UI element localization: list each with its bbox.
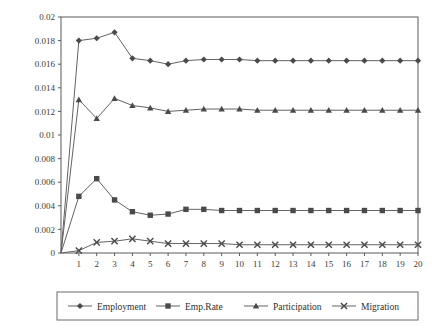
marker-diamond xyxy=(129,55,135,61)
x-tick-label: 7 xyxy=(184,259,189,269)
x-tick-label: 10 xyxy=(235,259,245,269)
legend-item-emp-rate[interactable]: Emp.Rate xyxy=(156,302,223,312)
x-tick-label: 9 xyxy=(219,259,224,269)
y-tick-label: 0.008 xyxy=(35,154,56,164)
marker-square xyxy=(273,208,278,213)
y-axis-tick-labels: 0.020.0180.0160.0140.0120.010.0080.0060.… xyxy=(35,12,56,258)
x-tick-label: 18 xyxy=(378,259,388,269)
x-tick-label: 15 xyxy=(324,259,334,269)
legend-item-employment[interactable]: Employment xyxy=(68,302,146,312)
plot-frame xyxy=(61,17,418,253)
line-chart: 0.020.0180.0160.0140.0120.010.0080.0060.… xyxy=(0,0,435,330)
marker-diamond xyxy=(147,58,153,64)
x-tick-label: 12 xyxy=(271,259,280,269)
marker-square xyxy=(148,213,153,218)
marker-square xyxy=(112,197,117,202)
x-tick-label: 6 xyxy=(166,259,171,269)
marker-square xyxy=(201,207,206,212)
marker-triangle xyxy=(111,95,117,101)
y-tick-label: 0.02 xyxy=(39,12,55,22)
marker-diamond xyxy=(290,58,296,64)
y-tick-label: 0.01 xyxy=(39,130,55,140)
marker-square xyxy=(94,176,99,181)
marker-diamond xyxy=(308,58,314,64)
marker-diamond xyxy=(236,56,242,62)
marker-square xyxy=(165,211,170,216)
marker-square xyxy=(255,208,260,213)
y-tick-label: 0 xyxy=(51,248,56,258)
marker-diamond xyxy=(397,58,403,64)
marker-diamond xyxy=(379,58,385,64)
marker-diamond xyxy=(183,58,189,64)
y-tick-label: 0.016 xyxy=(35,59,56,69)
legend-label: Emp.Rate xyxy=(185,302,223,312)
marker-diamond xyxy=(165,61,171,67)
series-layer xyxy=(61,29,421,254)
series-line xyxy=(61,32,418,253)
marker-square xyxy=(415,208,420,213)
marker-diamond xyxy=(344,58,350,64)
y-tick-label: 0.014 xyxy=(35,83,56,93)
marker-square xyxy=(130,209,135,214)
marker-diamond xyxy=(272,58,278,64)
legend-item-participation[interactable]: Participation xyxy=(244,302,322,312)
y-tick-label: 0.012 xyxy=(35,107,55,117)
series-participation xyxy=(61,95,421,253)
marker-diamond xyxy=(76,38,82,44)
x-tick-label: 20 xyxy=(414,259,424,269)
y-tick-label: 0.006 xyxy=(35,177,56,187)
marker-diamond xyxy=(77,303,83,309)
marker-square xyxy=(237,208,242,213)
x-axis-tick-labels: 1234567891011121314151617181920 xyxy=(77,259,423,269)
x-tick-label: 16 xyxy=(342,259,352,269)
x-tick-label: 3 xyxy=(112,259,117,269)
marker-diamond xyxy=(361,58,367,64)
chart-page: 0.020.0180.0160.0140.0120.010.0080.0060.… xyxy=(0,0,435,330)
x-tick-label: 17 xyxy=(360,259,370,269)
marker-triangle xyxy=(76,96,82,102)
marker-diamond xyxy=(94,35,100,41)
marker-square xyxy=(76,194,81,199)
x-tick-label: 13 xyxy=(289,259,299,269)
legend-item-migration[interactable]: Migration xyxy=(332,302,399,312)
series-migration xyxy=(61,236,421,254)
y-tick-label: 0.004 xyxy=(35,201,56,211)
marker-square xyxy=(183,207,188,212)
marker-square xyxy=(397,208,402,213)
legend-entries: EmploymentEmp.RateParticipationMigration xyxy=(68,302,399,312)
marker-square xyxy=(344,208,349,213)
marker-diamond xyxy=(111,29,117,35)
marker-square xyxy=(380,208,385,213)
marker-square xyxy=(219,208,224,213)
marker-diamond xyxy=(415,58,421,64)
x-tick-label: 8 xyxy=(202,259,207,269)
marker-square xyxy=(290,208,295,213)
marker-square xyxy=(362,208,367,213)
x-tick-label: 2 xyxy=(94,259,99,269)
marker-diamond xyxy=(201,56,207,62)
y-tick-label: 0.002 xyxy=(35,225,55,235)
series-employment xyxy=(61,29,421,253)
legend-label: Employment xyxy=(97,302,146,312)
legend-label: Participation xyxy=(273,302,322,312)
marker-diamond xyxy=(326,58,332,64)
marker-diamond xyxy=(219,56,225,62)
marker-square xyxy=(326,208,331,213)
x-tick-label: 11 xyxy=(253,259,262,269)
legend-label: Migration xyxy=(361,302,399,312)
x-tick-label: 4 xyxy=(130,259,135,269)
x-tick-label: 19 xyxy=(396,259,406,269)
marker-diamond xyxy=(254,58,260,64)
marker-square xyxy=(165,303,170,308)
x-tick-label: 1 xyxy=(77,259,82,269)
y-tick-label: 0.018 xyxy=(35,36,56,46)
x-tick-label: 5 xyxy=(148,259,153,269)
series-line xyxy=(61,98,418,253)
marker-square xyxy=(308,208,313,213)
marker-triangle xyxy=(129,102,135,108)
x-tick-label: 14 xyxy=(306,259,316,269)
